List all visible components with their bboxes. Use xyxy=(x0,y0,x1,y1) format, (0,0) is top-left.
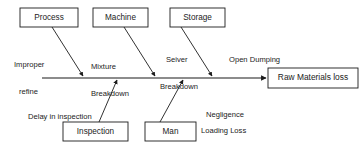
cause-line-1: Seiver xyxy=(160,56,208,65)
cause-label-loading-loss: Loading Loss xyxy=(201,110,261,150)
cause-label-open-dumping: Open Dumping xyxy=(229,39,299,83)
cause-label-seiver-breakdown: Seiver Breakdown xyxy=(160,39,208,109)
cause-line-1: Mixture xyxy=(91,63,139,72)
category-label-process: Process xyxy=(20,8,78,27)
fishbone-diagram: Process Machine Storage Inspection Man R… xyxy=(0,0,362,150)
cause-line-2: refine xyxy=(14,88,64,97)
category-label-storage: Storage xyxy=(170,8,225,27)
cause-line-1: Loading Loss xyxy=(201,127,261,136)
cause-line-2: Breakdown xyxy=(160,83,208,92)
category-label-machine: Machine xyxy=(93,8,148,27)
category-label-man: Man xyxy=(145,122,196,141)
cause-line-1: Improper xyxy=(14,61,64,70)
cause-line-1: Delay in inspection xyxy=(28,113,118,122)
cause-line-1: Open Dumping xyxy=(229,56,299,65)
cause-label-delay-in-inspection: Delay in inspection xyxy=(28,96,118,140)
